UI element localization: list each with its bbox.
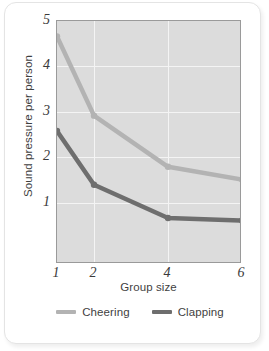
y-axis-title: Sound pressure per person [22,36,34,216]
legend-label-cheering: Cheering [82,306,129,318]
x-axis-title: Group size [56,281,241,293]
line-chart: 5 4 3 2 1 1 2 4 6 Sound pressure per per… [0,0,269,351]
series-plot [57,21,241,263]
legend-swatch-cheering [56,310,76,314]
data-point [165,164,171,170]
x-tick-label-4: 4 [156,266,178,280]
data-point [91,182,97,188]
x-tick-label-2: 2 [82,266,104,280]
x-tick-label-1: 1 [45,266,67,280]
y-tick-label-5: 5 [28,13,50,27]
chart-legend: Cheering Clapping [40,306,240,318]
legend-label-clapping: Clapping [178,306,224,318]
data-point [91,112,97,118]
data-point [165,215,171,221]
legend-item-clapping[interactable]: Clapping [152,306,224,318]
x-tick-label-6: 6 [230,266,252,280]
legend-swatch-clapping [152,310,172,314]
plot-area [56,20,241,263]
series-markers-cheering [57,33,241,183]
series-line-cheering [57,36,241,179]
legend-item-cheering[interactable]: Cheering [56,306,129,318]
